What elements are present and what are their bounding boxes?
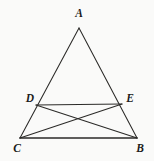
vertex-label-C: C xyxy=(13,143,21,155)
geometry-figure: A D E C B xyxy=(0,0,154,161)
segment-DE xyxy=(36,104,122,105)
vertex-label-D: D xyxy=(26,93,34,105)
vertex-label-A: A xyxy=(75,8,83,20)
vertex-label-E: E xyxy=(126,93,134,105)
vertex-label-B: B xyxy=(136,143,144,155)
figure-canvas xyxy=(0,0,154,161)
